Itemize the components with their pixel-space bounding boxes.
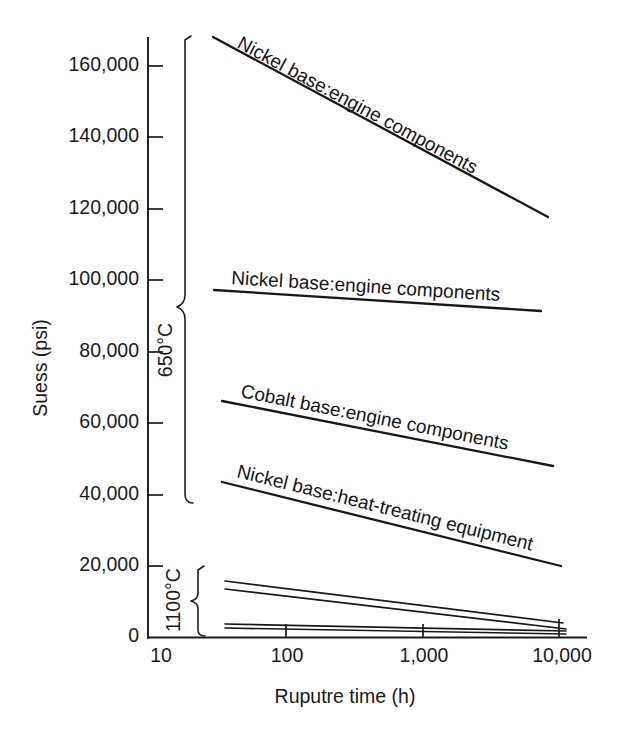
y-tick-label-140000: 140,000: [69, 124, 140, 146]
series-label-nickel-base-engine-components-1: Nickel base:engine components: [234, 32, 481, 178]
series-line-nickel-base-heat-treating-equipment: [222, 482, 561, 566]
x-tick-label-1000: 1,000: [400, 644, 449, 666]
x-axis-title: Ruputre time (h): [275, 685, 416, 707]
y-tick-label-100000: 100,000: [69, 267, 140, 289]
y-tick-label-40000: 40,000: [79, 482, 139, 504]
series-line-high-temp-line-3: [225, 624, 566, 631]
brace-650c-path: [177, 36, 193, 503]
chart-figure: 160,000 140,000 120,000 100,000 80,000 6…: [0, 0, 628, 735]
chart-canvas: 160,000 140,000 120,000 100,000 80,000 6…: [0, 0, 628, 735]
y-tick-labels: 160,000 140,000 120,000 100,000 80,000 6…: [69, 53, 140, 646]
x-tick-labels: 10 100 1,000 10,000: [150, 644, 592, 666]
y-tick-marks: [148, 66, 163, 566]
y-tick-label-20000: 20,000: [79, 553, 139, 575]
y-tick-label-0: 0: [128, 624, 139, 646]
series-line-high-temp-line-2: [225, 589, 566, 629]
y-tick-label-160000: 160,000: [69, 53, 140, 75]
series-line-high-temp-line-4: [225, 628, 566, 634]
x-tick-label-10000: 10,000: [532, 644, 592, 666]
group-label-1100c: 1100°C: [162, 568, 184, 632]
y-tick-label-80000: 80,000: [79, 339, 139, 361]
series-line-high-temp-line-1: [225, 581, 563, 623]
y-tick-label-120000: 120,000: [69, 196, 140, 218]
x-tick-label-10: 10: [150, 644, 172, 666]
brace-1100c: 1100°C: [162, 566, 205, 636]
x-tick-label-100: 100: [271, 644, 304, 666]
y-axis-title: Suess (psi): [29, 319, 51, 417]
group-label-650c: 650°C: [154, 323, 176, 377]
brace-650c: 650°C: [154, 36, 193, 503]
brace-1100c-path: [191, 566, 205, 636]
series-label-cobalt-base-engine-components: Cobalt base:engine components: [239, 380, 510, 454]
y-tick-label-60000: 60,000: [79, 410, 139, 432]
data-series-group-1100c: [225, 581, 566, 634]
series-label-nickel-base-heat-treating-equipment: Nickel base:heat-treating equipment: [235, 461, 536, 555]
